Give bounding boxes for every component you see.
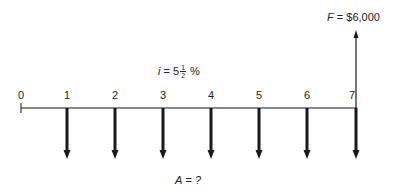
interest-fraction-denominator: 2 [180,72,186,79]
period-label-2: 2 [112,89,118,101]
period-label-0: 0 [18,89,24,101]
future-value-amount: $6,000 [346,11,380,23]
interest-whole: 5 [173,65,179,77]
interest-equals: = [164,65,170,77]
future-value-symbol: F [327,11,334,23]
future-value-label: F = $6,000 [327,11,380,23]
period-label-6: 6 [304,89,310,101]
period-label-3: 3 [160,89,166,101]
annuity-arrow-period-3 [160,108,167,159]
annuity-arrow-period-4 [208,108,215,159]
period-label-1: 1 [64,89,70,101]
period-label-7: 7 [349,89,355,101]
annuity-arrow-period-2 [112,108,119,159]
annuity-arrow-period-6 [304,108,311,159]
annuity-arrows [64,108,360,159]
period-label-4: 4 [208,89,214,101]
annuity-value: ? [195,174,201,186]
cash-flow-diagram [0,0,407,196]
period-label-5: 5 [256,89,262,101]
annuity-arrow-period-5 [256,108,263,159]
annuity-arrow-period-1 [64,108,71,159]
future-value-equals: = [337,11,343,23]
annuity-symbol: A [175,174,182,186]
interest-symbol: i [158,65,160,77]
interest-rate-label: i = 512 % [158,65,200,80]
annuity-label: A = ? [175,174,201,186]
annuity-equals: = [185,174,191,186]
interest-unit: % [190,65,200,77]
annuity-arrow-period-7 [353,108,360,159]
interest-fraction: 12 [180,64,186,79]
interest-fraction-numerator: 1 [180,64,186,72]
